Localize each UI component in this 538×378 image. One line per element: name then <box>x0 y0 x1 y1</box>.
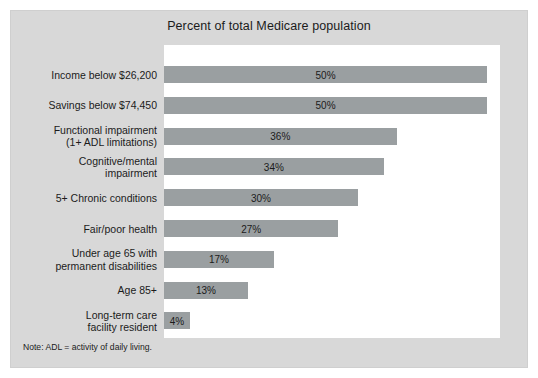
bar-value-label: 13% <box>164 285 248 296</box>
bar-value-label: 34% <box>164 161 384 172</box>
bar-track: 50% <box>164 66 500 83</box>
bar-row: Fair/poor health27% <box>11 220 529 237</box>
bar-track: 13% <box>164 282 500 299</box>
bar-category-label: Long-term care facility resident <box>7 309 157 334</box>
bar-category-label: Savings below $74,450 <box>7 99 157 111</box>
bar-category-label: Functional impairment (1+ ADL limitation… <box>7 124 157 149</box>
bar-track: 27% <box>164 220 500 237</box>
bar-row: Income below $26,20050% <box>11 66 529 83</box>
bar-category-label: Income below $26,200 <box>7 68 157 80</box>
bar-category-label: Fair/poor health <box>7 222 157 234</box>
bar-track: 34% <box>164 158 500 175</box>
bar-track: 50% <box>164 97 500 114</box>
bar-row: Savings below $74,45050% <box>11 97 529 114</box>
bar-value-label: 4% <box>164 315 190 326</box>
bar-value-label: 50% <box>164 100 487 111</box>
bar-value-label: 36% <box>164 131 397 142</box>
bar-track: 4% <box>164 312 500 329</box>
chart-figure: Percent of total Medicare population Inc… <box>10 10 528 368</box>
bar-track: 30% <box>164 189 500 206</box>
chart-title: Percent of total Medicare population <box>11 19 527 33</box>
bar-value-label: 50% <box>164 69 487 80</box>
bar-value-label: 27% <box>164 223 338 234</box>
bar-track: 17% <box>164 251 500 268</box>
bar-value-label: 30% <box>164 192 358 203</box>
bar-category-label: 5+ Chronic conditions <box>7 192 157 204</box>
bar-row: Long-term care facility resident4% <box>11 312 529 329</box>
bar-rows: Income below $26,20050%Savings below $74… <box>11 45 529 338</box>
bar-category-label: Under age 65 with permanent disabilities <box>7 247 157 272</box>
bar-category-label: Cognitive/mental impairment <box>7 155 157 180</box>
bar-row: 5+ Chronic conditions30% <box>11 189 529 206</box>
bar-row: Under age 65 with permanent disabilities… <box>11 251 529 268</box>
bar-row: Functional impairment (1+ ADL limitation… <box>11 128 529 145</box>
bar-track: 36% <box>164 128 500 145</box>
chart-note: Note: ADL = activity of daily living. <box>23 342 152 352</box>
bar-category-label: Age 85+ <box>7 284 157 296</box>
bar-value-label: 17% <box>164 254 274 265</box>
bar-row: Cognitive/mental impairment34% <box>11 158 529 175</box>
bar-row: Age 85+13% <box>11 282 529 299</box>
